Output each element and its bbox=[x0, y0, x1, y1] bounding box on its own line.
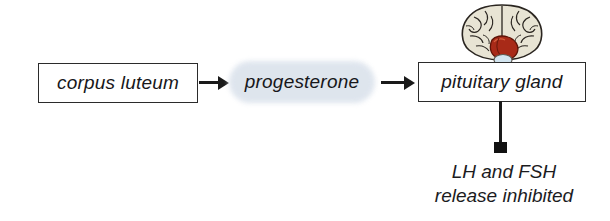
node-pituitary-gland[interactable]: pituitary gland bbox=[418, 62, 586, 102]
inhibition-caption-line-1: LH and FSH bbox=[406, 160, 602, 184]
arrow-shaft bbox=[381, 81, 405, 84]
inhibition-caption: LH and FSH release inhibited bbox=[406, 160, 602, 208]
brain-icon bbox=[458, 2, 546, 66]
node-corpus-luteum-label: corpus luteum bbox=[57, 72, 179, 94]
node-pituitary-gland-label: pituitary gland bbox=[441, 71, 562, 93]
arrow-shaft bbox=[199, 81, 219, 84]
node-progesterone[interactable]: progesterone bbox=[229, 61, 375, 103]
node-corpus-luteum[interactable]: corpus luteum bbox=[38, 63, 198, 103]
arrow-head-icon bbox=[404, 76, 415, 90]
inhibition-terminator-square-icon bbox=[494, 142, 507, 153]
diagram-canvas: corpus luteum progesterone bbox=[0, 0, 610, 221]
arrow-head-icon bbox=[218, 76, 229, 90]
inhibition-connector-line bbox=[499, 101, 502, 143]
inhibition-caption-line-2: release inhibited bbox=[406, 184, 602, 208]
node-progesterone-label: progesterone bbox=[245, 71, 359, 93]
